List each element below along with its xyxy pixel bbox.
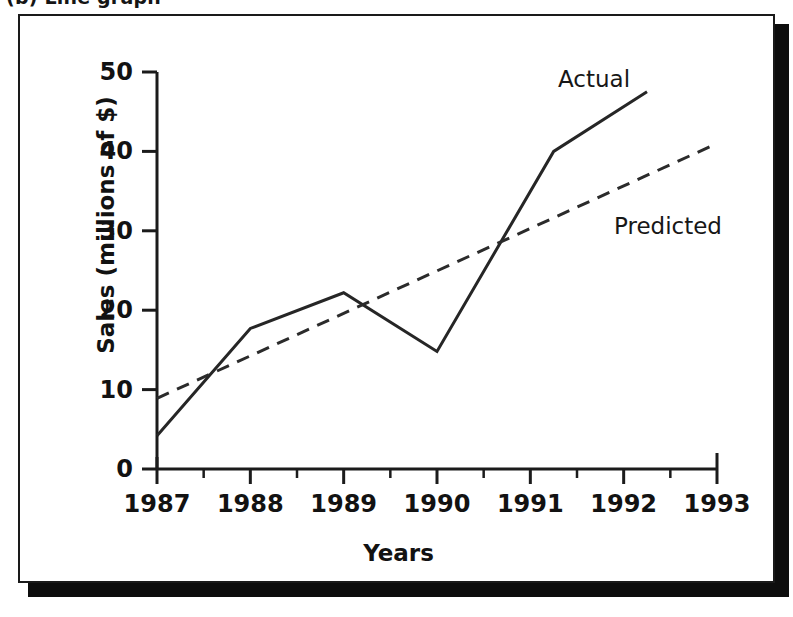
series-line-actual [157,92,647,436]
y-axis-tick-label: 0 [73,457,133,481]
x-axis-tick-label: 1993 [662,492,772,516]
figure-caption-clip: (b) Line graph [0,0,793,12]
y-axis-tick-label: 10 [73,378,133,402]
x-axis-title: Years [20,540,775,566]
y-axis-title: Sales (millions of $) [93,75,119,375]
series-layer [157,92,717,436]
series-annotation-actual: Actual [558,66,630,92]
figure-caption: (b) Line graph [6,0,161,8]
series-line-predicted [157,143,717,398]
series-annotation-predicted: Predicted [614,213,722,239]
figure-frame: 01020304050 1987198819891990199119921993… [18,14,775,583]
axis-layer [142,72,717,484]
